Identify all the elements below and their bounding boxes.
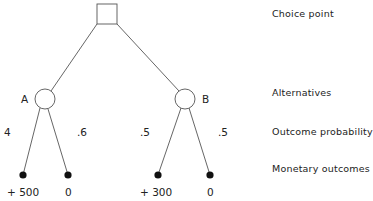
edge-b-outcome-1 [158, 108, 181, 175]
probability-b1: .5 [140, 126, 150, 138]
edge-a-outcome-1 [23, 108, 40, 175]
legend-choice-point: Choice point [272, 8, 334, 20]
edge-choice-to-b [117, 24, 179, 91]
legend-outcome-probability: Outcome probability [272, 126, 373, 138]
outcome-value-a1: + 500 [7, 186, 39, 198]
probability-a1: 4 [4, 126, 11, 138]
probability-a2: .6 [77, 126, 87, 138]
alternative-b-node [175, 89, 195, 109]
edge-b-outcome-2 [189, 108, 210, 175]
probability-b2: .5 [218, 126, 228, 138]
legend-alternatives: Alternatives [272, 87, 331, 99]
outcome-dot-b2 [206, 171, 213, 178]
choice-point-square [97, 4, 117, 24]
legend-monetary-outcomes: Monetary outcomes [272, 163, 370, 175]
edge-a-outcome-2 [48, 109, 68, 175]
outcome-value-b1: + 300 [140, 186, 172, 198]
alternative-a-node [35, 89, 55, 109]
outcome-value-a2: 0 [65, 186, 72, 198]
outcome-dot-a1 [19, 171, 26, 178]
outcome-dot-a2 [64, 171, 71, 178]
alternative-a-label: A [21, 93, 28, 105]
edge-choice-to-a [51, 24, 97, 91]
alternative-b-label: B [202, 93, 209, 105]
outcome-value-b2: 0 [207, 186, 214, 198]
outcome-dot-b1 [154, 171, 161, 178]
